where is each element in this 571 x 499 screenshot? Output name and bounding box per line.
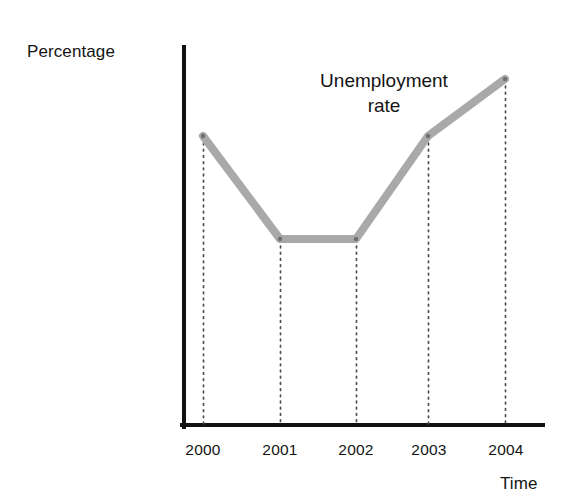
plot-area — [0, 0, 571, 499]
data-point-2001 — [278, 237, 282, 241]
x-tick-label-2000: 2000 — [173, 440, 233, 459]
data-point-2003 — [426, 134, 430, 138]
chart-container: Percentage Unemployment rate 2000 2001 2… — [0, 0, 571, 499]
data-point-2002 — [354, 237, 358, 241]
series-annotation-line-1: Unemployment — [320, 70, 448, 91]
series-annotation: Unemployment rate — [302, 68, 466, 118]
series-annotation-line-2: rate — [302, 93, 466, 118]
x-tick-label-2001: 2001 — [250, 440, 310, 459]
x-tick-label-2003: 2003 — [399, 440, 459, 459]
guide-lines — [204, 80, 506, 424]
data-point-2000 — [201, 134, 205, 138]
x-tick-label-2002: 2002 — [326, 440, 386, 459]
x-tick-label-2004: 2004 — [476, 440, 536, 459]
data-point-2004 — [503, 77, 507, 81]
x-axis-label: Time — [500, 474, 538, 494]
